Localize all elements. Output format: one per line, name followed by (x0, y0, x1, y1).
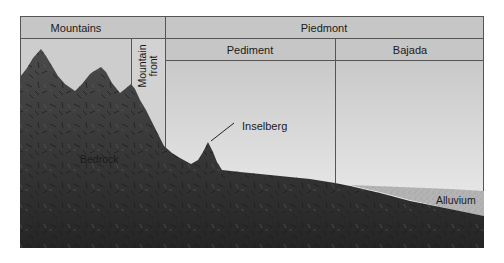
label-inselberg: Inselberg (242, 120, 287, 132)
label-bedrock: Bedrock (80, 153, 119, 165)
label-bajada: Bajada (393, 44, 428, 56)
label-mountains: Mountains (51, 22, 102, 34)
label-alluvium: Alluvium (436, 194, 476, 206)
label-pediment: Pediment (227, 44, 273, 56)
header-row-2 (165, 38, 484, 60)
landform-cross-section-diagram: Mountains Piedmont Pediment Bajada Mount… (0, 0, 504, 263)
label-mountain-front-line2: front (147, 55, 159, 76)
label-piedmont: Piedmont (301, 22, 347, 34)
